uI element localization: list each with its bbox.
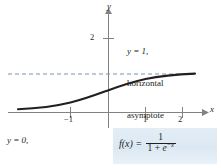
left-asymptote-annotation: y = 0, horizontal asymptote to the left: [7, 114, 44, 168]
formula-fraction: 1 1 + e−x: [146, 133, 176, 153]
denominator-prefix: 1 +: [148, 143, 163, 153]
left-asymptote-line2: horizontal: [7, 167, 44, 168]
sigmoid-curve: [18, 74, 195, 110]
denominator-exponent: −x: [167, 141, 174, 148]
sigmoid-function-figure: y x 2 −1 1 2 y = 1, horizontal asymptote…: [0, 0, 221, 168]
right-asymptote-line3: asymptote: [127, 110, 167, 121]
formula-left-hand-side: f(x): [119, 138, 133, 149]
formula-equals-sign: =: [136, 138, 142, 149]
x-tick-label-2: 2: [178, 114, 182, 124]
y-axis-label: y: [107, 1, 111, 12]
left-asymptote-equation: y = 0,: [7, 135, 44, 146]
right-asymptote-line2: horizontal: [127, 78, 167, 89]
x-axis-arrowhead: [202, 109, 209, 116]
x-tick-label-minus1: −1: [64, 114, 73, 124]
function-formula: f(x) = 1 1 + e−x: [119, 133, 176, 153]
x-axis-label: x: [210, 104, 214, 115]
right-asymptote-equation: y = 1,: [127, 46, 167, 57]
y-tick-label-2: 2: [90, 32, 94, 42]
fraction-denominator: 1 + e−x: [146, 144, 176, 154]
